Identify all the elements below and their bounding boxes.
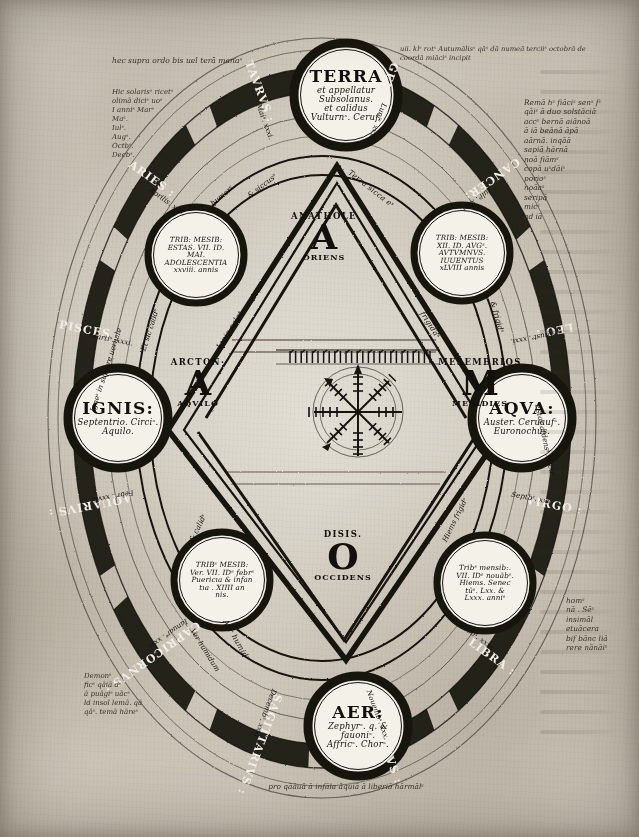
element-sub-line: Aquilo. <box>73 427 163 436</box>
marginalia-left-line: Maˢ. <box>112 115 174 124</box>
ruling-line <box>540 290 618 294</box>
direction-arcton: ARCTON· A AQVILO <box>143 358 253 408</box>
marginalia-right-line: noā fiāmˢ <box>524 155 620 164</box>
direction-disis: DISIS. O OCCIDENS <box>288 530 398 582</box>
ruling-line <box>540 90 618 94</box>
direction-latin: ORIENS <box>269 253 379 261</box>
ruling-line <box>540 370 618 374</box>
ruling-line <box>540 630 618 634</box>
ruling-line <box>540 470 618 474</box>
season-line: nis. <box>180 591 264 599</box>
marginalia-left-line: Augˢ. <box>112 133 174 142</box>
element-circle-aer: AER:Zephyrˢ. q. & fauoniˢ.Affricˢ. Chorˢ… <box>313 704 403 749</box>
ruling-line <box>540 150 618 154</box>
marginalia-bottom-left-line: Demonˢ <box>84 672 160 681</box>
marginalia-top-left: hec supra ordo bis uel terā manaˢ <box>112 56 262 66</box>
direction-letter: A <box>143 367 253 399</box>
marginalia-left-line: olimā diciˢ uoˢ <box>112 97 174 106</box>
ruling-line <box>540 670 618 674</box>
manuscript-page: GEMINI·Luniˢ. xxx.CANCER:Iuliˢ. xxxi.LEO… <box>0 0 639 837</box>
ruling-line <box>540 390 618 394</box>
ruling-line <box>540 130 618 134</box>
element-circle-terra: TERRAet appellaturSubsolanus.et calidusV… <box>299 68 393 122</box>
ruling-line <box>540 430 618 434</box>
direction-latin: MERIDIES <box>425 399 535 407</box>
season-line: xxviii. annis <box>154 266 238 274</box>
marginalia-bottom-left-line: ā puāgiˢ uācˢ <box>84 690 160 699</box>
marginalia-bottom-right-line: bif bānc liā <box>566 634 630 643</box>
season-circle-hiems: Tribˢ mensib:.VII. IDˢ nouābˢ.Hiems. Sen… <box>443 564 527 602</box>
ruling-line <box>540 590 618 594</box>
ruling-line <box>540 490 618 494</box>
marginalia-bottom-right-line: homˢ <box>566 596 630 605</box>
marginalia-bottom-right: homˢnā . Sēˢinsimāletuācerabif bānc liār… <box>566 596 630 653</box>
marginalia-bottom-left-line: ld insol lemā. qā <box>84 699 160 708</box>
ruling-line <box>540 710 618 714</box>
ruling-line <box>540 70 618 74</box>
marginalia-bottom-right-line: insimāl <box>566 615 630 624</box>
marginalia-bottom-left-line: qāˢ. temā hāreˢ <box>84 708 160 717</box>
direction-latin: AQVILO <box>143 399 253 407</box>
ruling-line <box>540 450 618 454</box>
ruling-line <box>540 650 618 654</box>
direction-letter: M <box>425 367 535 399</box>
marginalia-left-line: Hic solarisˢ ricetˢ <box>112 88 174 97</box>
ruling-line <box>540 350 618 354</box>
element-name: AER: <box>313 704 403 722</box>
ruling-line <box>540 230 618 234</box>
ruling-line <box>540 270 618 274</box>
marginalia-right-line: aārnā. inqāā <box>524 136 620 145</box>
season-circle-ver: TRIBˢ MESIB:Ver. VII. IDˢ febrˢPuericıa … <box>180 561 264 599</box>
ruling-line <box>540 610 618 614</box>
marginalia-left-line: Decbˢ. <box>112 151 174 160</box>
marginalia-right-line: Remā hˢ fiāciˢ senˢ fˢ <box>524 98 620 107</box>
direction-letter: A <box>269 221 379 253</box>
ruling-line <box>540 570 618 574</box>
ruling-line <box>540 250 618 254</box>
ruling-line <box>540 410 618 414</box>
marginalia-right-line: seripā <box>524 193 620 202</box>
marginalia-right-line: porioˢ <box>524 174 620 183</box>
ruling-line <box>540 110 618 114</box>
season-line: Lxxx. anniˢ <box>443 594 527 602</box>
marginalia-right-line: accˢ bernā aiānoā <box>524 117 620 126</box>
marginalia-left-block: Hic solarisˢ ricetˢolimā diciˢ uoˢI anni… <box>112 88 174 160</box>
marginalia-top-right: uii. klˢ rotˢ Autumālisˢ qāˢ dā numeā te… <box>400 45 610 62</box>
ruling-line <box>540 550 618 554</box>
direction-anatole: ANATHOLE A ORIENS <box>269 212 379 262</box>
marginalia-left-line: I anniˢ Marˢ <box>112 106 174 115</box>
element-sub-line: Zephyrˢ. q. & fauoniˢ. <box>313 722 403 740</box>
season-circle-aestas: TRIB: MESIB:ESTAS. VII. ID.MAI.ADOLESCEN… <box>154 236 238 274</box>
marginalia-bottom-left: Demonˢficˢ qāiā dˢā puāgiˢ uācˢld insol … <box>84 672 160 717</box>
ruling-line <box>540 190 618 194</box>
ruling-line <box>540 530 618 534</box>
marginalia-right-block: Remā hˢ fiāciˢ senˢ fˢqāiˢ ā duo solstāc… <box>524 98 620 221</box>
ruling-line <box>540 210 618 214</box>
ruling-line <box>540 730 618 734</box>
direction-mesembrios: MESEMBRIOS M MERIDIES <box>425 358 535 408</box>
marginalia-bottom-band-text: pro qāāuā ā infāla āquiā ā liberiā hārmā… <box>268 782 424 791</box>
ruling-line <box>540 330 618 334</box>
ruling-line <box>540 510 618 514</box>
marginalia-left-line: Octbˢ. <box>112 142 174 151</box>
marginalia-bottom-left-line: ficˢ qāiā dˢ <box>84 681 160 690</box>
marginalia-left-line: Iulˢ. <box>112 124 174 133</box>
season-line: xLVIII annis <box>420 264 504 272</box>
element-sub-line: Affricˢ. Chorˢ. <box>313 739 403 748</box>
element-sub-line: Vulturnˢ. Ceruf. <box>299 113 393 122</box>
marginalia-top-left-text: hec supra ordo bis uel terā manaˢ <box>112 56 242 65</box>
runic-strip <box>276 350 440 364</box>
ruling-line <box>540 310 618 314</box>
element-name: TERRA <box>299 68 393 86</box>
direction-letter: O <box>288 539 398 573</box>
season-circle-autumnus: TRIB: MESIB:XII. ID. AVGˢ.AVTVMNVS.IUUEN… <box>420 234 504 272</box>
ruling-line <box>540 170 618 174</box>
direction-latin: OCCIDENS <box>288 573 398 581</box>
marginalia-top-right-text: uii. klˢ rotˢ Autumālisˢ qāˢ dā numeā te… <box>400 45 586 62</box>
ruling-line <box>540 690 618 694</box>
marginalia-bottom-band: pro qāāuā ā infāla āquiā ā liberiā hārmā… <box>196 782 496 791</box>
